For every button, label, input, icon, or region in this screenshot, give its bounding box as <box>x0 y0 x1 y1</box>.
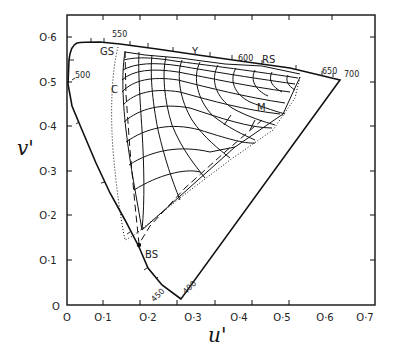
x-tick-labels: O O·1 O·2 O·3 O·4 O·5 O·6 O·7 <box>63 312 374 323</box>
wavelength-label-650: 650 <box>322 67 337 76</box>
bs-point <box>137 243 141 247</box>
x-tick-label: O·4 <box>230 312 247 323</box>
y-tick-label: O·3 <box>39 166 56 177</box>
chromaticity-diagram: O O·1 O·2 O·3 O·4 O·5 O·6 O·7 O O·1 O·2 … <box>0 0 396 356</box>
wavelength-label-600: 600 <box>238 54 253 63</box>
x-tick-label: O·1 <box>94 312 111 323</box>
wavelength-label-500: 500 <box>75 71 90 80</box>
x-tick-label: O·6 <box>316 312 333 323</box>
x-tick-label: O·5 <box>273 312 290 323</box>
x-tick-label: O·3 <box>184 312 201 323</box>
colour-solid-grid <box>122 52 300 230</box>
label-y: Y <box>191 46 199 57</box>
wavelength-label-550: 550 <box>112 30 127 39</box>
x-tick-label: O <box>63 312 71 323</box>
locus-ticks <box>69 38 333 279</box>
wavelength-label-400: 400 <box>181 279 198 296</box>
y-tick-label: O <box>52 301 60 312</box>
y-tick-label: O·1 <box>39 255 56 266</box>
x-tick-label: O·7 <box>356 312 373 323</box>
y-tick-label: O·4 <box>39 121 56 132</box>
y-axis-title: v' <box>17 136 34 160</box>
label-rs: RS <box>262 54 275 65</box>
y-tick-label: O·6 <box>39 32 56 43</box>
dotted-gamut-boundary <box>112 47 300 240</box>
label-m: M <box>257 102 266 113</box>
label-c: C <box>111 84 118 95</box>
wavelength-label-450: 450 <box>149 287 166 304</box>
y-tick-label: O·2 <box>39 210 56 221</box>
label-bs: BS <box>145 249 158 260</box>
y-tick-labels: O O·1 O·2 O·3 O·4 O·5 O·6 <box>39 32 60 312</box>
x-axis-title: u' <box>208 323 226 347</box>
wavelength-label-700: 700 <box>344 70 359 79</box>
y-tick-label: O·5 <box>39 77 56 88</box>
x-tick-label: O·2 <box>139 312 156 323</box>
label-gs: GS <box>100 46 114 57</box>
